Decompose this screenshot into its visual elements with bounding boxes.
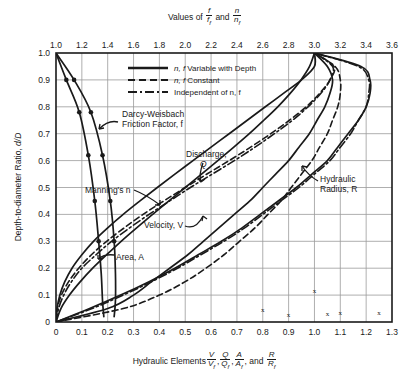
annotation-hydraulic-radius: Hydraulic Radius, R	[320, 175, 357, 195]
annotation-velocity: Velocity, V	[144, 221, 183, 231]
legend-item-dashed: n, f Constant	[126, 74, 256, 86]
data-point-marker	[96, 239, 101, 244]
leader-line	[202, 216, 207, 221]
x-marker: x	[339, 309, 343, 317]
data-point-marker	[100, 153, 105, 158]
data-point-marker	[112, 239, 117, 244]
legend: n, f Variable with Depth n, f Constant I…	[126, 62, 256, 98]
data-point-marker	[72, 78, 77, 83]
x-marker: x	[326, 310, 330, 318]
legend-key-solid-line	[126, 63, 170, 73]
marker-group: xxxxxx	[64, 78, 381, 319]
legend-label-solid: n, f Variable with Depth	[174, 64, 256, 73]
x-marker: x	[261, 306, 265, 314]
data-point-marker	[64, 78, 69, 83]
annotation-area: Area, A	[116, 253, 144, 263]
bottom-axis-frac: RRf	[267, 351, 276, 370]
x-marker: x	[287, 311, 291, 319]
leader-line	[185, 216, 203, 227]
legend-key-dashdot-line	[126, 87, 170, 97]
bottom-axis-title: Hydraulic ElementsVVf,QQf,AAf, and RRf	[0, 352, 410, 371]
data-point-marker	[89, 110, 94, 115]
data-point-marker	[77, 110, 82, 115]
bottom-axis-frac: VVf	[207, 351, 216, 370]
hydraulic-elements-chart: Values of f ff and n nf 1.01.21.41.61.82…	[0, 0, 410, 379]
bottom-axis-and: and	[247, 356, 266, 366]
legend-label-dashed: n, f Constant	[174, 76, 219, 85]
data-point-marker	[86, 153, 91, 158]
annotation-discharge: Discharge, Q	[186, 150, 227, 169]
annotation-leaders	[98, 121, 318, 259]
bottom-axis-frac: AAf	[235, 351, 244, 370]
legend-label-dashdot: Independent of n, f	[174, 88, 241, 97]
x-marker: x	[377, 309, 381, 317]
legend-key-dashed-line	[126, 75, 170, 85]
annotation-mannings-n: Manning's n	[85, 186, 131, 196]
annotation-darcy-weisbach: Darcy-Weisbach Friction Factor, f	[122, 110, 184, 130]
legend-item-solid: n, f Variable with Depth	[126, 62, 256, 74]
legend-item-dashdot: Independent of n, f	[126, 86, 256, 98]
x-marker: x	[313, 287, 317, 295]
data-point-marker	[92, 199, 97, 204]
bottom-axis-frac: QQf	[220, 351, 230, 370]
data-point-marker	[108, 199, 113, 204]
